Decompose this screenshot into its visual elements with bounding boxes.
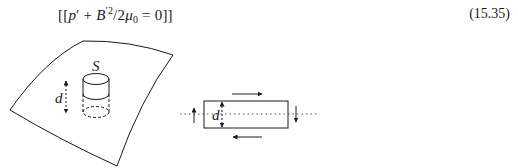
pillbox-cylinder [83,74,109,118]
loop-height-label: d [212,107,220,123]
height-label: d [55,90,63,106]
pillbox-diagram: d S [10,41,173,166]
surface-label: S [92,58,100,74]
figure-illustrations: d S d [0,0,518,168]
rectangular-loop-diagram: d [180,94,318,137]
